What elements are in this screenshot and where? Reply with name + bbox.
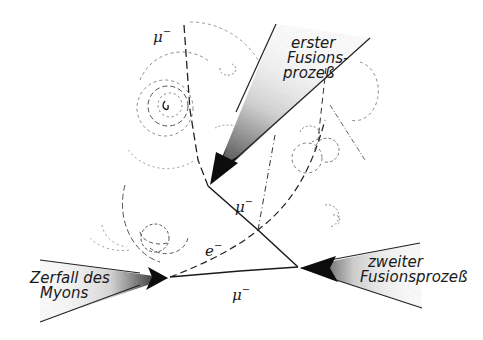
first-fusion-label-line-3: prozeß [283, 66, 348, 81]
electron-symbol: e− [205, 238, 222, 259]
muon-catalyzed-fusion-diagram: erster Fusions- prozeß zweiter Fusionspr… [0, 0, 483, 340]
dash-dot-track [258, 135, 275, 230]
muon-middle-symbol: μ− [235, 194, 253, 215]
muon-decay-label-line-2: Myons [30, 286, 110, 301]
muon-incoming-symbol: μ− [153, 24, 171, 45]
muon-decay-label: Zerfall des Myons [30, 271, 110, 301]
first-fusion-label: erster Fusions- prozeß [283, 36, 348, 81]
second-fusion-label: zweiter Fusionsprozeß [360, 255, 467, 285]
muon-bottom-symbol: μ− [232, 282, 250, 303]
second-fusion-label-line-2: Fusionsprozeß [360, 270, 467, 285]
muon-bottom-track [170, 267, 298, 277]
